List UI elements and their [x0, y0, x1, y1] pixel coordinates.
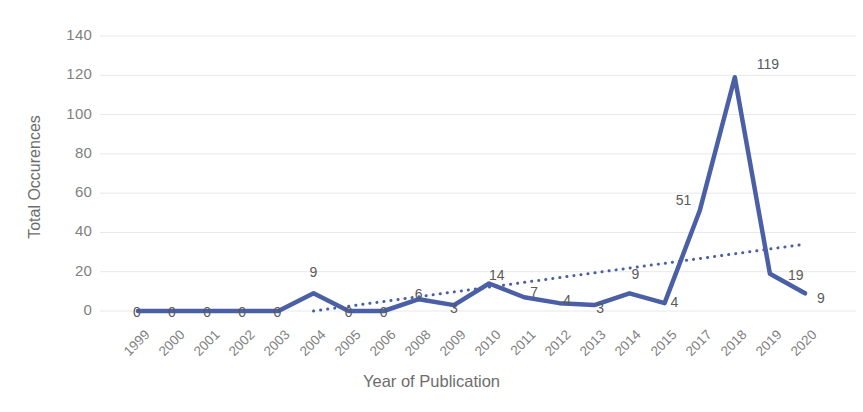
- data-label-2011: 7: [530, 284, 538, 300]
- data-label-2012: 4: [563, 292, 571, 308]
- y-axis-tick-100: 100: [46, 105, 92, 122]
- y-axis-tick-60: 60: [46, 183, 92, 200]
- data-label-2000: 0: [168, 304, 176, 320]
- y-axis-tick-80: 80: [46, 144, 92, 161]
- data-label-2010: 14: [489, 267, 505, 283]
- x-axis-title: Year of Publication: [0, 372, 863, 391]
- data-label-2001: 0: [203, 304, 211, 320]
- y-axis-tick-20: 20: [46, 262, 92, 279]
- gridlines: [100, 36, 856, 311]
- chart-container: 020406080100120140 199920002001200220032…: [0, 0, 863, 412]
- data-line-series: [138, 77, 805, 311]
- y-axis-tick-0: 0: [46, 301, 92, 318]
- y-axis-tick-140: 140: [46, 26, 92, 43]
- data-label-2006: 0: [380, 304, 388, 320]
- data-label-2004: 9: [310, 264, 318, 280]
- data-label-2013: 3: [596, 300, 604, 316]
- data-label-2020: 9: [817, 290, 825, 306]
- data-label-2014: 9: [631, 266, 639, 282]
- data-label-2005: 0: [345, 304, 353, 320]
- data-label-2008: 6: [415, 286, 423, 302]
- y-axis-tick-40: 40: [46, 222, 92, 239]
- data-label-2018: 119: [757, 56, 779, 72]
- data-label-2003: 0: [273, 304, 281, 320]
- data-label-2015: 4: [671, 294, 679, 310]
- y-axis-tick-120: 120: [46, 65, 92, 82]
- data-label-2002: 0: [238, 304, 246, 320]
- data-label-2019: 19: [788, 267, 804, 283]
- data-label-2009: 3: [450, 300, 458, 316]
- y-axis-title: Total Occurences: [26, 72, 44, 282]
- data-label-2017: 51: [676, 192, 692, 208]
- data-label-1999: 0: [133, 304, 141, 320]
